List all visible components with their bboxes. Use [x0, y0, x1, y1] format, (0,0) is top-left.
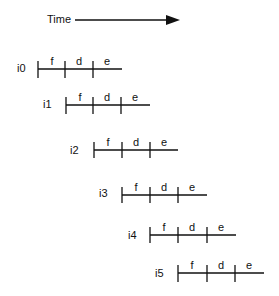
instruction-label-i2: i2	[70, 145, 79, 156]
instruction-label-i1: i1	[43, 99, 52, 110]
diagram-lines	[0, 0, 279, 296]
instruction-label-i4: i4	[128, 230, 137, 241]
instruction-label-i3: i3	[99, 188, 108, 199]
stage-label: d	[65, 56, 93, 67]
stage-label: e	[93, 56, 121, 67]
stage-label: d	[93, 92, 121, 103]
stage-label: e	[150, 137, 178, 148]
stage-label: d	[150, 182, 178, 193]
stage-label: d	[122, 137, 150, 148]
stage-label: e	[178, 182, 206, 193]
stage-label: f	[178, 260, 206, 271]
stage-label: e	[235, 260, 263, 271]
stage-label: f	[150, 222, 178, 233]
stage-label: f	[122, 182, 150, 193]
stage-label: e	[207, 222, 235, 233]
stage-label: d	[207, 260, 235, 271]
instruction-label-i5: i5	[155, 268, 164, 279]
time-label: Time	[47, 14, 71, 25]
stage-label: f	[94, 137, 122, 148]
arrowhead-icon	[166, 15, 180, 25]
stage-label: e	[121, 92, 149, 103]
stage-label: d	[178, 222, 206, 233]
stage-label: f	[38, 56, 66, 67]
instruction-label-i0: i0	[17, 63, 26, 74]
stage-label: f	[66, 92, 94, 103]
